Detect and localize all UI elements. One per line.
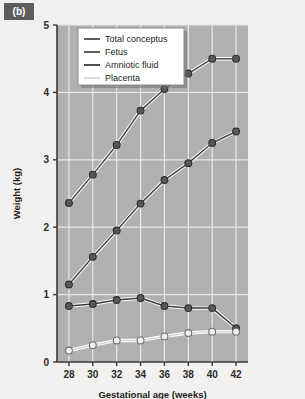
data-point-marker bbox=[113, 337, 120, 344]
data-point-marker bbox=[89, 342, 96, 349]
y-axis-tick-label: 0 bbox=[43, 357, 49, 368]
data-point-marker bbox=[185, 305, 192, 312]
data-point-marker bbox=[233, 128, 240, 135]
data-point-marker bbox=[66, 303, 73, 310]
data-point-marker bbox=[89, 301, 96, 308]
x-axis-tick-label: 32 bbox=[111, 369, 123, 380]
data-point-marker bbox=[233, 328, 240, 335]
legend-label-3: Placenta bbox=[105, 73, 140, 83]
data-point-marker bbox=[185, 160, 192, 167]
legend-label-0: Total conceptus bbox=[105, 34, 168, 44]
data-point-marker bbox=[161, 333, 168, 340]
data-point-marker bbox=[66, 281, 73, 288]
y-axis-tick-label: 5 bbox=[43, 20, 49, 31]
weight-vs-gestational-age-chart: 0123452830323436384042Weight (kg)Gestati… bbox=[0, 0, 305, 399]
data-point-marker bbox=[161, 303, 168, 310]
data-point-marker bbox=[137, 107, 144, 114]
y-axis-title: Weight (kg) bbox=[11, 168, 22, 220]
chart-svg: 0123452830323436384042Weight (kg)Gestati… bbox=[0, 0, 305, 399]
data-point-marker bbox=[161, 177, 168, 184]
data-point-marker bbox=[185, 330, 192, 337]
x-axis-tick-label: 30 bbox=[87, 369, 99, 380]
x-axis-tick-label: 40 bbox=[207, 369, 219, 380]
data-point-marker bbox=[66, 200, 73, 207]
data-point-marker bbox=[137, 295, 144, 302]
data-point-marker bbox=[113, 142, 120, 149]
x-axis-tick-label: 38 bbox=[183, 369, 195, 380]
y-axis-tick-label: 4 bbox=[43, 87, 49, 98]
x-axis-tick-label: 36 bbox=[159, 369, 171, 380]
y-axis-tick-label: 3 bbox=[43, 154, 49, 165]
data-point-marker bbox=[209, 305, 216, 312]
y-axis-tick-label: 1 bbox=[43, 289, 49, 300]
y-axis-tick-label: 2 bbox=[43, 222, 49, 233]
x-axis-tick-label: 34 bbox=[135, 369, 147, 380]
data-point-marker bbox=[233, 55, 240, 62]
data-point-marker bbox=[209, 328, 216, 335]
legend-label-2: Amniotic fluid bbox=[105, 60, 159, 70]
data-point-marker bbox=[209, 140, 216, 147]
x-axis-title: Gestational age (weeks) bbox=[98, 389, 206, 399]
data-point-marker bbox=[209, 55, 216, 62]
x-axis-tick-label: 28 bbox=[63, 369, 75, 380]
data-point-marker bbox=[137, 337, 144, 344]
data-point-marker bbox=[89, 171, 96, 178]
data-point-marker bbox=[137, 200, 144, 207]
data-point-marker bbox=[66, 347, 73, 354]
x-axis-tick-label: 42 bbox=[231, 369, 243, 380]
legend-label-1: Fetus bbox=[105, 47, 128, 57]
data-point-marker bbox=[89, 253, 96, 260]
data-point-marker bbox=[113, 227, 120, 234]
data-point-marker bbox=[113, 297, 120, 304]
